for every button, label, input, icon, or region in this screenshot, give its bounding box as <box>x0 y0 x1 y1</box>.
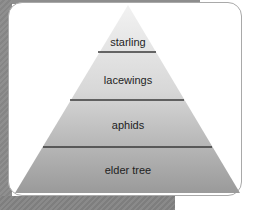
level-label-lacewings: lacewings <box>104 74 153 86</box>
level-label-starling: starling <box>110 36 145 48</box>
level-label-aphids: aphids <box>112 119 145 131</box>
level-label-elder-tree: elder tree <box>105 164 151 176</box>
food-pyramid: starling lacewings aphids elder tree <box>0 0 259 210</box>
